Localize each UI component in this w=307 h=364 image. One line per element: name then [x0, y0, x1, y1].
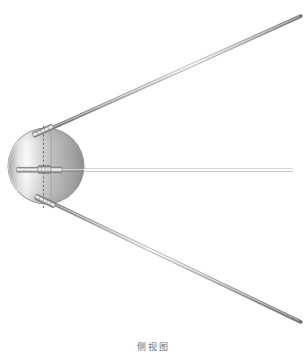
figure-caption: 侧视图 — [0, 341, 307, 353]
antenna-upper-edge-top — [40, 15, 300, 132]
antenna-lower-specular — [52, 203, 299, 321]
antenna-lower-edge-top — [45, 198, 302, 321]
antenna-horizontal — [60, 169, 293, 172]
center-fitting-left-body — [17, 167, 39, 172]
antenna-lower-edge-bottom — [43, 200, 300, 323]
antenna-upper-edge-bottom — [42, 17, 302, 134]
center-fitting-collar — [38, 166, 51, 173]
figure-canvas: 侧视图 — [0, 0, 307, 364]
sputnik-side-view-illustration — [0, 0, 307, 364]
antenna-upper-specular — [50, 17, 299, 129]
center-fitting-right-sleeve — [51, 167, 62, 173]
antenna-upper — [40, 15, 302, 135]
antenna-lower — [43, 198, 302, 324]
